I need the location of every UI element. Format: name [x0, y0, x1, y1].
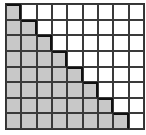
empty-cell [113, 98, 128, 114]
shaded-cell [37, 67, 52, 83]
shaded-cell [52, 51, 67, 67]
empty-cell [129, 35, 144, 51]
shaded-cell [37, 113, 52, 129]
shaded-cell [52, 67, 67, 83]
shaded-cell [21, 113, 36, 129]
shaded-cell [83, 113, 98, 129]
shaded-cell [6, 82, 21, 98]
shaded-cell [98, 113, 113, 129]
empty-cell [113, 67, 128, 83]
shaded-cell [21, 98, 36, 114]
shaded-cell [52, 113, 67, 129]
empty-cell [98, 82, 113, 98]
empty-cell [129, 98, 144, 114]
staircase-grid [5, 3, 145, 130]
empty-cell [98, 35, 113, 51]
shaded-cell [6, 35, 21, 51]
shaded-cell [67, 67, 82, 83]
shaded-cell [67, 113, 82, 129]
shaded-cell [37, 98, 52, 114]
shaded-cell [37, 35, 52, 51]
shaded-cell [83, 82, 98, 98]
empty-cell [83, 4, 98, 20]
shaded-cell [6, 20, 21, 36]
shaded-cell [6, 67, 21, 83]
empty-cell [129, 51, 144, 67]
empty-cell [37, 20, 52, 36]
empty-cell [98, 51, 113, 67]
empty-cell [98, 4, 113, 20]
shaded-cell [6, 51, 21, 67]
shaded-cell [6, 98, 21, 114]
empty-cell [98, 20, 113, 36]
shaded-cell [113, 113, 128, 129]
empty-cell [52, 20, 67, 36]
empty-cell [67, 20, 82, 36]
empty-cell [37, 4, 52, 20]
empty-cell [52, 4, 67, 20]
empty-cell [98, 67, 113, 83]
shaded-cell [6, 113, 21, 129]
empty-cell [67, 4, 82, 20]
shaded-cell [6, 4, 21, 20]
shaded-cell [37, 82, 52, 98]
shaded-cell [83, 98, 98, 114]
shaded-cell [21, 35, 36, 51]
empty-cell [83, 35, 98, 51]
shaded-cell [37, 51, 52, 67]
shaded-cell [21, 67, 36, 83]
shaded-cell [98, 98, 113, 114]
empty-cell [67, 35, 82, 51]
shaded-cell [21, 82, 36, 98]
empty-cell [129, 113, 144, 129]
empty-cell [113, 4, 128, 20]
empty-cell [83, 51, 98, 67]
shaded-cell [67, 82, 82, 98]
empty-cell [113, 51, 128, 67]
empty-cell [129, 20, 144, 36]
shaded-cell [67, 98, 82, 114]
empty-cell [52, 35, 67, 51]
empty-cell [113, 82, 128, 98]
empty-cell [83, 20, 98, 36]
shaded-cell [21, 20, 36, 36]
empty-cell [21, 4, 36, 20]
empty-cell [129, 67, 144, 83]
empty-cell [129, 82, 144, 98]
empty-cell [129, 4, 144, 20]
empty-cell [67, 51, 82, 67]
empty-cell [113, 35, 128, 51]
shaded-cell [21, 51, 36, 67]
shaded-cell [52, 82, 67, 98]
empty-cell [83, 67, 98, 83]
empty-cell [113, 20, 128, 36]
shaded-cell [52, 98, 67, 114]
